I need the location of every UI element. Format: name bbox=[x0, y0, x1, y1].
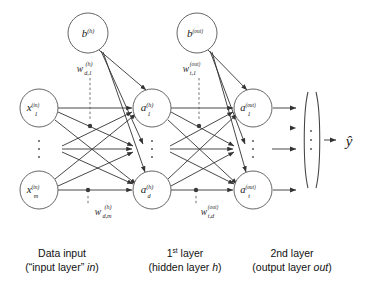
node-hidden-last: a(h)d bbox=[133, 171, 171, 209]
node-output-last: a(out)t bbox=[234, 171, 272, 209]
caption-hidden-line2: (hidden layer h) bbox=[149, 261, 222, 273]
weight-dot-output-t1 bbox=[197, 124, 201, 128]
node-hidden-first: a(h)1 bbox=[133, 89, 171, 127]
prediction-label-yhat: ŷ bbox=[344, 133, 353, 149]
caption-input-line2: (“input layer” in) bbox=[25, 261, 99, 273]
caption-output-line2: (output layer out) bbox=[252, 261, 331, 273]
node-circle bbox=[133, 89, 171, 127]
caption-input-line1: Data input bbox=[38, 247, 86, 259]
node-input-last: x(in)m bbox=[20, 171, 58, 209]
caption-hidden-line1: 1st layer bbox=[167, 247, 204, 259]
node-output-first: a(out)1 bbox=[234, 89, 272, 127]
weight-dot-hidden-dm bbox=[86, 188, 90, 192]
caption-output-line1: 2nd layer bbox=[270, 247, 314, 259]
node-circle bbox=[133, 171, 171, 209]
weight-dot-output-td bbox=[194, 188, 198, 192]
node-bias-output: b(out) bbox=[177, 13, 217, 53]
node-input-first: x(in)1 bbox=[20, 89, 58, 127]
neural-network-diagram: b(h) b(out) x(in)1 x(in)m a(h)1 a(h)d a(… bbox=[0, 0, 369, 299]
weight-dot-hidden-d1 bbox=[88, 124, 92, 128]
node-bias-hidden: b(h) bbox=[68, 13, 108, 53]
